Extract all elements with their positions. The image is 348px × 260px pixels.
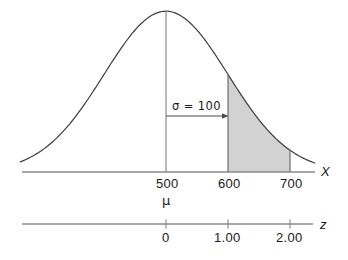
mu-label: μ [162, 194, 170, 207]
distribution-plot-svg [0, 0, 348, 260]
x-tick-label-600: 600 [218, 177, 241, 190]
z-tick-label-2: 2.00 [276, 231, 303, 244]
sigma-annotation-label: σ = 100 [172, 101, 221, 113]
x-axis-label: X [321, 165, 330, 178]
z-tick-label-0: 0 [162, 231, 170, 244]
normal-distribution-figure: 500 600 700 μ X 0 1.00 2.00 z σ = 100 [0, 0, 348, 260]
x-tick-label-700: 700 [280, 177, 303, 190]
z-tick-label-1: 1.00 [214, 231, 241, 244]
z-axis-label: z [320, 218, 327, 231]
x-tick-label-500: 500 [156, 177, 179, 190]
